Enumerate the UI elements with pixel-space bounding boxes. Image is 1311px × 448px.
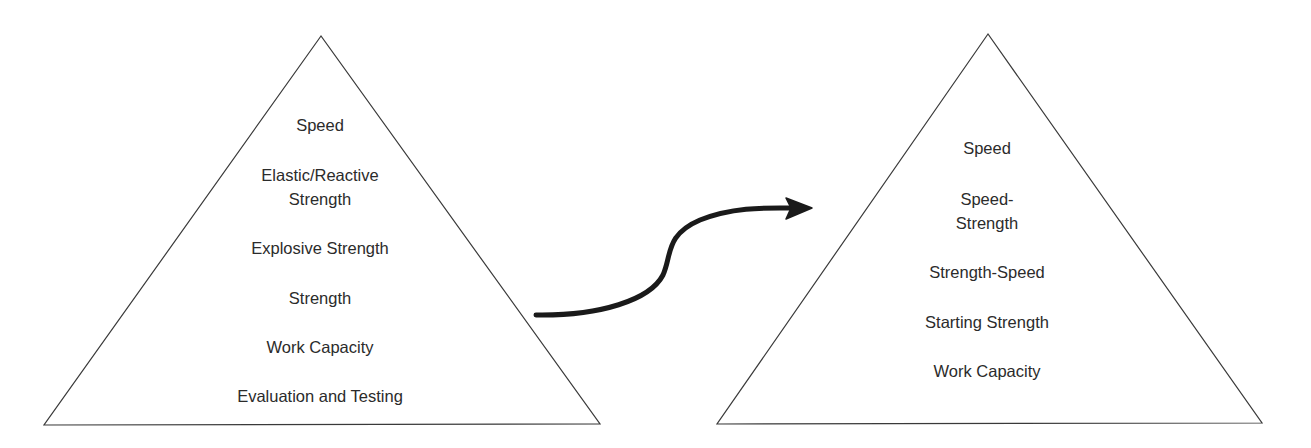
left-level-work-capacity: Work Capacity	[267, 336, 374, 358]
right-level-speed-strength-line2: Strength	[956, 212, 1018, 234]
left-pyramid-outline	[44, 36, 600, 425]
transition-arrow-shaft	[536, 208, 795, 315]
left-level-evaluation-testing: Evaluation and Testing	[237, 385, 403, 407]
right-level-speed: Speed	[963, 137, 1011, 159]
left-level-strength: Strength	[289, 287, 351, 309]
left-level-elastic-line2: Strength	[289, 188, 351, 210]
right-level-starting-strength: Starting Strength	[925, 311, 1049, 333]
right-level-speed-strength-line1: Speed-	[960, 188, 1013, 210]
right-level-strength-speed: Strength-Speed	[929, 261, 1045, 283]
left-level-speed: Speed	[296, 114, 344, 136]
left-level-elastic-line1: Elastic/Reactive	[261, 164, 378, 186]
right-level-work-capacity: Work Capacity	[934, 360, 1041, 382]
left-level-explosive-strength: Explosive Strength	[251, 237, 389, 259]
diagram-canvas	[0, 0, 1311, 448]
